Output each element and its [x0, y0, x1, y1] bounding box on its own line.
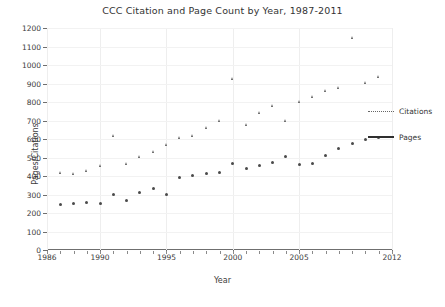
x-tick-minor [246, 251, 247, 254]
data-point-pages [125, 199, 128, 202]
x-tick-minor [127, 251, 128, 254]
x-tick-minor [233, 251, 234, 254]
data-point-pages [218, 171, 221, 174]
y-tick-label: 300 [27, 190, 41, 199]
data-point-citations [364, 81, 366, 84]
y-tick [43, 213, 47, 214]
data-point-citations [59, 171, 61, 174]
y-tick-label: 1200 [22, 24, 41, 33]
data-point-citations [72, 172, 74, 175]
y-tick [43, 65, 47, 66]
plot-area: 0100200300400500600700800900100011001200… [47, 28, 392, 250]
data-point-pages [271, 161, 274, 164]
x-tick-minor [87, 251, 88, 254]
x-tick-minor [47, 251, 48, 254]
x-tick-minor [392, 251, 393, 254]
y-tick-label: 1000 [22, 61, 41, 70]
data-point-citations [377, 75, 379, 78]
y-tick [43, 158, 47, 159]
chart-title: CCC Citation and Page Count by Year, 198… [0, 5, 445, 16]
gridline-y [47, 195, 392, 196]
gridline-y [47, 65, 392, 66]
data-point-pages [165, 193, 168, 196]
gridline-y [47, 84, 392, 85]
gridline-y [47, 139, 392, 140]
x-tick-label: 1990 [91, 253, 110, 262]
x-tick-label: 1986 [37, 253, 56, 262]
y-tick [43, 195, 47, 196]
x-tick-minor [312, 251, 313, 254]
data-point-pages [178, 176, 181, 179]
data-point-citations [311, 95, 313, 98]
data-point-citations [165, 143, 167, 146]
legend-item-citations: Citations [368, 104, 432, 118]
gridline-y [47, 213, 392, 214]
y-tick [43, 232, 47, 233]
y-tick-label: 500 [27, 153, 41, 162]
legend-label-citations: Citations [399, 107, 432, 116]
x-tick-minor [60, 251, 61, 254]
x-tick-minor [140, 251, 141, 254]
legend-label-pages: Pages [399, 133, 421, 142]
x-tick-minor [365, 251, 366, 254]
gridline-y [47, 158, 392, 159]
x-tick-minor [206, 251, 207, 254]
y-tick [43, 28, 47, 29]
x-tick-minor [153, 251, 154, 254]
data-point-pages [311, 162, 314, 165]
gridline-y [47, 28, 392, 29]
x-tick-minor [273, 251, 274, 254]
x-tick-minor [339, 251, 340, 254]
x-tick-minor [259, 251, 260, 254]
data-point-citations [271, 104, 273, 107]
x-tick-minor [220, 251, 221, 254]
x-tick-minor [286, 251, 287, 254]
data-point-pages [245, 167, 248, 170]
data-point-pages [72, 202, 75, 205]
y-tick [43, 84, 47, 85]
data-point-citations [178, 136, 180, 139]
data-point-pages [59, 203, 62, 206]
data-point-citations [284, 119, 286, 122]
x-tick-minor [379, 251, 380, 254]
data-point-citations [191, 134, 193, 137]
y-tick-label: 600 [27, 135, 41, 144]
gridline-y [47, 232, 392, 233]
data-point-citations [218, 119, 220, 122]
data-point-citations [258, 111, 260, 114]
data-point-citations [298, 100, 300, 103]
chart-legend: Citations Pages [368, 104, 432, 156]
y-tick [43, 102, 47, 103]
y-tick [43, 121, 47, 122]
y-tick [43, 139, 47, 140]
y-tick-label: 900 [27, 79, 41, 88]
y-tick-label: 200 [27, 209, 41, 218]
y-tick-label: 700 [27, 116, 41, 125]
data-point-pages [112, 193, 115, 196]
y-tick [43, 176, 47, 177]
x-tick-minor [326, 251, 327, 254]
data-point-citations [245, 123, 247, 126]
gridline-y [47, 102, 392, 103]
x-tick-minor [180, 251, 181, 254]
y-tick-label: 800 [27, 98, 41, 107]
citations-line-icon [368, 111, 394, 112]
data-point-pages [85, 201, 88, 204]
x-tick-minor [352, 251, 353, 254]
x-tick-label: 2012 [382, 253, 401, 262]
data-point-citations [125, 162, 127, 165]
y-tick-label: 1100 [22, 42, 41, 51]
data-point-pages [231, 162, 234, 165]
data-point-pages [99, 202, 102, 205]
x-tick-minor [74, 251, 75, 254]
data-point-pages [298, 163, 301, 166]
data-point-citations [337, 86, 339, 89]
x-axis-label: Year [0, 276, 445, 285]
data-point-pages [351, 142, 354, 145]
data-point-citations [112, 134, 114, 137]
chart-figure: CCC Citation and Page Count by Year, 198… [0, 0, 445, 307]
x-tick-label: 2000 [223, 253, 242, 262]
x-tick-minor [299, 251, 300, 254]
data-point-citations [205, 126, 207, 129]
y-tick-label: 400 [27, 172, 41, 181]
